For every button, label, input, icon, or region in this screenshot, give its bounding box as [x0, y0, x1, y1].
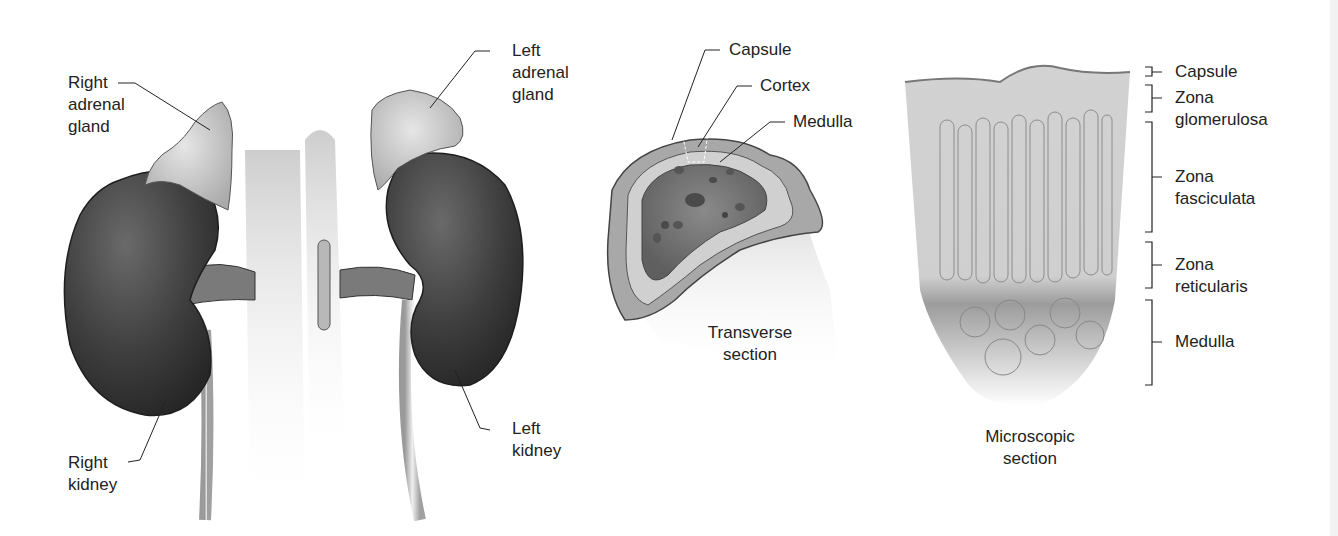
label-left-adrenal-gland: Left adrenal gland: [512, 40, 569, 106]
label-left-kidney: Left kidney: [512, 418, 561, 462]
label-transverse-medulla: Medulla: [793, 111, 853, 133]
right-edge-strip: [1330, 0, 1338, 536]
label-line: adrenal: [512, 62, 569, 84]
caption-line: section: [975, 448, 1085, 470]
label-line: Medulla: [1175, 331, 1235, 353]
label-line: Left: [512, 40, 569, 62]
label-line: Right: [68, 72, 125, 94]
label-line: kidney: [512, 440, 561, 462]
label-line: adrenal: [68, 94, 125, 116]
label-line: Capsule: [729, 39, 791, 61]
label-line: glomerulosa: [1175, 109, 1268, 131]
microscopic-section-drawing: [905, 66, 1130, 406]
label-line: Right: [68, 452, 117, 474]
label-right-kidney: Right kidney: [68, 452, 117, 496]
label-line: Zona: [1175, 166, 1255, 188]
label-micro-capsule: Capsule: [1175, 61, 1237, 83]
label-right-adrenal-gland: Right adrenal gland: [68, 72, 125, 138]
label-line: reticularis: [1175, 276, 1248, 298]
label-line: Capsule: [1175, 61, 1237, 83]
label-line: Zona: [1175, 87, 1268, 109]
caption-line: Microscopic: [975, 426, 1085, 448]
great-vessels: [245, 130, 345, 520]
label-line: fasciculata: [1175, 188, 1255, 210]
label-micro-medulla: Medulla: [1175, 331, 1235, 353]
label-line: Zona: [1175, 254, 1248, 276]
label-line: gland: [68, 116, 125, 138]
label-line: Cortex: [760, 75, 810, 97]
label-line: gland: [512, 84, 569, 106]
label-transverse-capsule: Capsule: [729, 39, 791, 61]
caption-microscopic-section: Microscopic section: [975, 426, 1085, 470]
label-line: Left: [512, 418, 561, 440]
adrenal-gland-illustration: [0, 0, 1338, 536]
caption-transverse-section: Transverse section: [700, 322, 800, 366]
label-zona-reticularis: Zona reticularis: [1175, 254, 1248, 298]
label-zona-fasciculata: Zona fasciculata: [1175, 166, 1255, 210]
label-transverse-cortex: Cortex: [760, 75, 810, 97]
caption-line: section: [700, 344, 800, 366]
caption-line: Transverse: [700, 322, 800, 344]
label-line: kidney: [68, 474, 117, 496]
label-line: Medulla: [793, 111, 853, 133]
label-zona-glomerulosa: Zona glomerulosa: [1175, 87, 1268, 131]
